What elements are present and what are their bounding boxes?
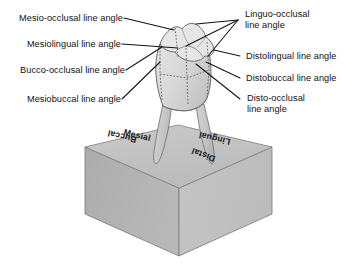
block-cube bbox=[85, 125, 272, 256]
label-bucco-occlusal: Bucco-occlusal line angle bbox=[20, 65, 125, 76]
label-distolingual: Distolingual line angle bbox=[246, 51, 337, 62]
label-linguo-occlusal: Linguo-occlusal line angle bbox=[245, 9, 310, 30]
label-disto-occlusal-line1: Disto-occlusal bbox=[247, 93, 305, 104]
tooth-line-angles-figure: Mesio-occlusal line angle Mesiolingual l… bbox=[0, 0, 357, 264]
label-linguo-occlusal-line1: Linguo-occlusal bbox=[245, 9, 310, 20]
label-disto-occlusal: Disto-occlusal line angle bbox=[247, 93, 305, 114]
leader-mesio-occlusal bbox=[124, 18, 174, 30]
leader-mesiobuccal bbox=[122, 62, 160, 99]
label-linguo-occlusal-line2: line angle bbox=[245, 20, 310, 31]
leader-distolingual bbox=[214, 50, 240, 56]
label-mesiolingual: Mesiolingual line angle bbox=[27, 39, 121, 50]
label-mesio-occlusal: Mesio-occlusal line angle bbox=[19, 13, 123, 24]
label-disto-occlusal-line2: line angle bbox=[247, 104, 305, 115]
leader-linguo-occlusal-c bbox=[208, 20, 238, 56]
label-mesiobuccal: Mesiobuccal line angle bbox=[27, 94, 121, 105]
label-distobuccal: Distobuccal line angle bbox=[246, 73, 336, 84]
